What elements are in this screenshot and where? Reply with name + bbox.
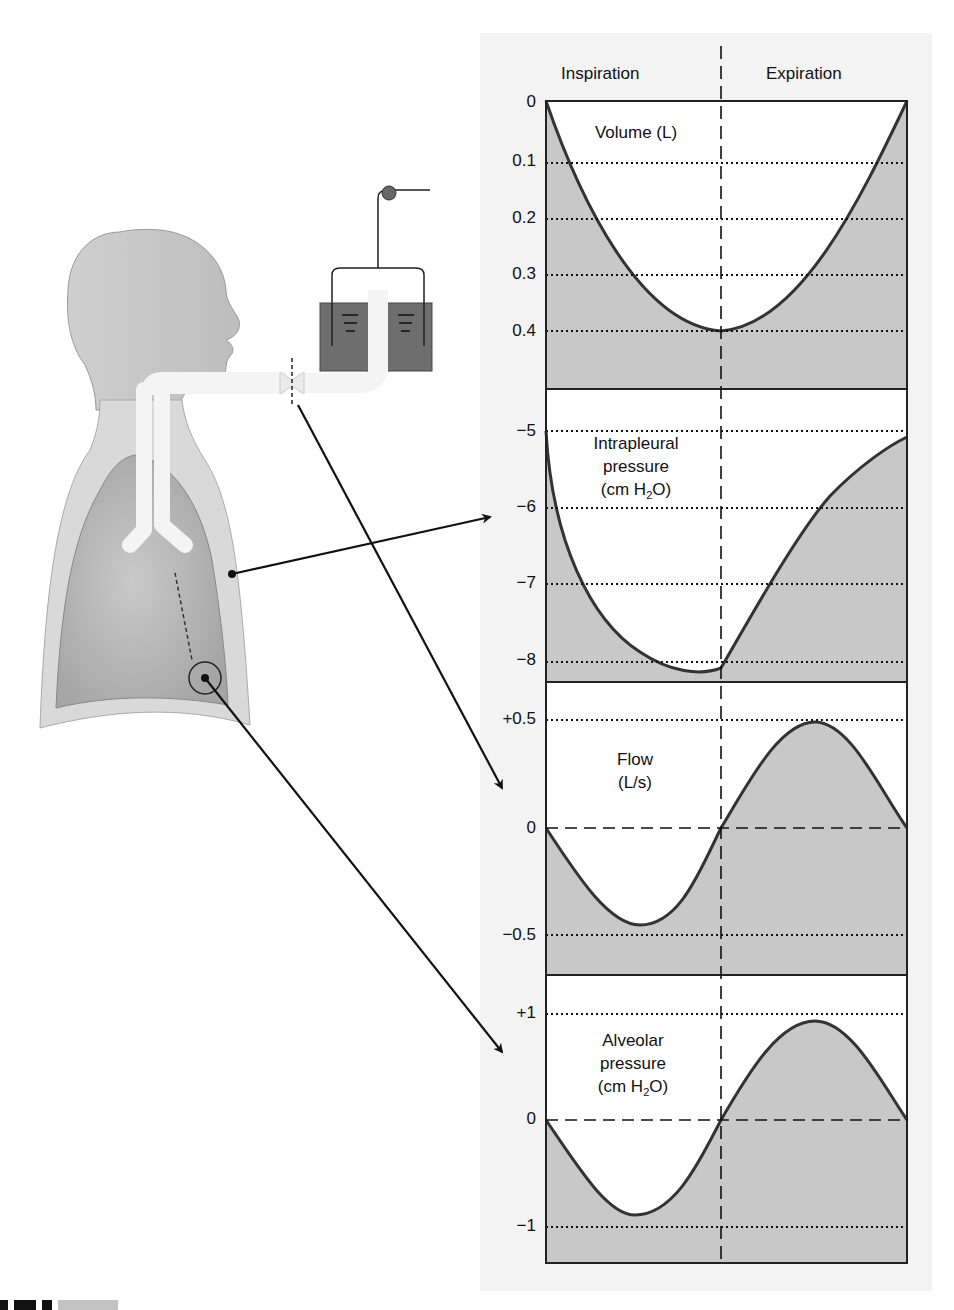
- tick-label: 0: [488, 92, 536, 112]
- alveolar-title: Alveolar pressure (cm H2O): [553, 1029, 713, 1104]
- flow-title: Flow (L/s): [555, 748, 715, 794]
- tick-label: 0.4: [488, 321, 536, 341]
- tick-label: −0.5: [488, 925, 536, 945]
- tick-label: 0.3: [488, 264, 536, 284]
- tick-label: 0.1: [488, 151, 536, 171]
- pulley-icon: [382, 186, 396, 200]
- tick-label: −8: [488, 650, 536, 670]
- tick-label: +0.5: [488, 709, 536, 729]
- tick-label: −6: [488, 497, 536, 517]
- truncated-caption: [0, 1300, 954, 1310]
- chart-alveolar: [546, 975, 907, 1263]
- chart-volume: [546, 101, 907, 389]
- arrow-flow: [298, 405, 502, 788]
- tick-label: +1: [488, 1003, 536, 1023]
- arrow-alveolar: [205, 678, 502, 1052]
- expiration-label: Expiration: [766, 64, 842, 84]
- intrapleural-title: Intrapleural pressure (cm H2O): [556, 432, 716, 507]
- volume-title: Volume (L): [556, 121, 716, 144]
- tick-label: −1: [488, 1216, 536, 1236]
- diagram-canvas: [0, 0, 954, 1310]
- tank-inlet-tube: [368, 290, 388, 374]
- spirometer: [320, 186, 432, 374]
- connector-arrows: [205, 405, 502, 1052]
- pulley-cord: [378, 190, 430, 268]
- tick-label: 0: [488, 818, 536, 838]
- inspiration-label: Inspiration: [561, 64, 639, 84]
- tick-label: 0: [488, 1109, 536, 1129]
- tick-label: −5: [488, 421, 536, 441]
- chart-flow: [546, 682, 907, 975]
- tick-label: −7: [488, 573, 536, 593]
- tick-label: 0.2: [488, 208, 536, 228]
- airway-tube: [153, 383, 286, 395]
